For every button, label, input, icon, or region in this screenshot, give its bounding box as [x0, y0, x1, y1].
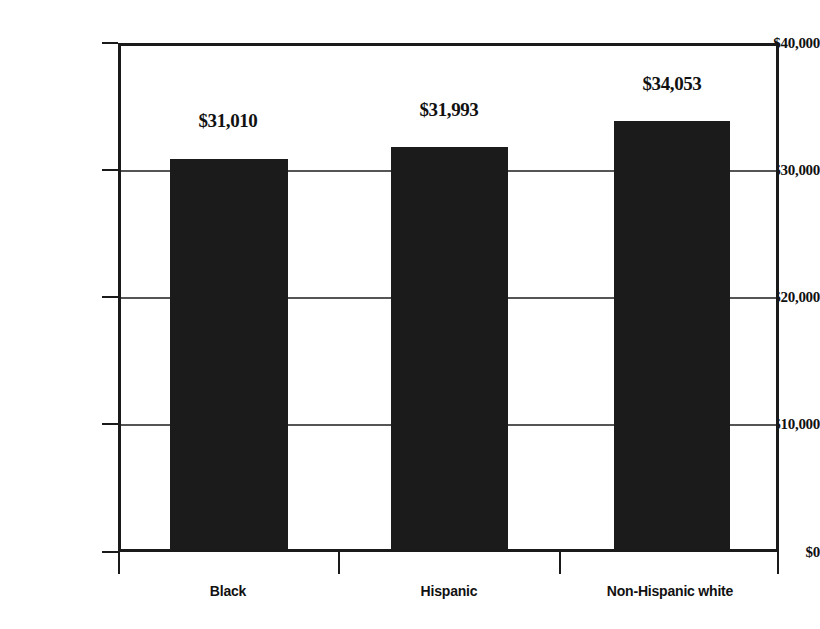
bar-black [170, 159, 288, 549]
y-axis-tick-10000 [102, 423, 118, 425]
y-axis-tick-30000 [102, 169, 118, 171]
x-axis-tick-2 [559, 552, 561, 574]
bar-value-black: $31,010 [199, 110, 258, 132]
bar-value-hispanic: $31,993 [420, 99, 479, 121]
bar-chart-figure: Bar chart comparing three values by race… [0, 0, 820, 629]
bar-non-hispanic-white [614, 121, 730, 549]
x-axis-label-hispanic: Hispanic [421, 583, 478, 599]
y-axis-tick-20000 [102, 296, 118, 298]
x-axis-tick-3 [777, 552, 779, 574]
chart-description: Bar chart comparing three values by race… [0, 0, 1, 1]
x-axis-tick-0 [118, 552, 120, 574]
x-axis-label-non-hispanic-white: Non-Hispanic white [607, 583, 733, 599]
x-axis-tick-1 [338, 552, 340, 574]
bar-value-non-hispanic-white: $34,053 [643, 73, 702, 95]
y-axis-tick-40000 [102, 42, 118, 44]
y-axis-tick-0 [102, 551, 118, 553]
x-axis-label-black: Black [210, 583, 246, 599]
bar-hispanic [391, 147, 508, 549]
